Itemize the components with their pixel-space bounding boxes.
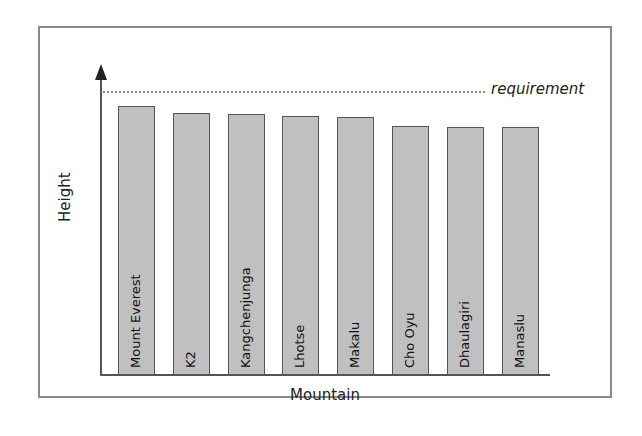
bar: Manaslu bbox=[502, 127, 539, 375]
x-axis-label: Mountain bbox=[0, 386, 642, 404]
bar: K2 bbox=[173, 113, 210, 375]
bar: Kangchenjunga bbox=[228, 114, 265, 375]
bar-label: Lhotse bbox=[292, 325, 307, 368]
bar-label: Kangchenjunga bbox=[238, 267, 253, 368]
bar: Cho Oyu bbox=[392, 126, 429, 375]
bar-label: K2 bbox=[183, 351, 198, 368]
bar: Lhotse bbox=[282, 116, 319, 375]
bar: Makalu bbox=[337, 117, 374, 375]
bar-label: Dhaulagiri bbox=[457, 301, 472, 368]
bar-label: Cho Oyu bbox=[402, 312, 417, 368]
y-axis bbox=[100, 70, 102, 376]
bar: Dhaulagiri bbox=[447, 127, 484, 375]
bar: Mount Everest bbox=[118, 106, 155, 375]
bar-label: Mount Everest bbox=[128, 274, 143, 368]
requirement-line bbox=[103, 91, 485, 93]
requirement-label: requirement bbox=[491, 80, 584, 98]
bar-label: Makalu bbox=[347, 322, 362, 368]
bar-label: Manaslu bbox=[512, 314, 527, 368]
y-axis-arrow-icon bbox=[95, 64, 107, 80]
y-axis-label: Height bbox=[56, 172, 74, 222]
